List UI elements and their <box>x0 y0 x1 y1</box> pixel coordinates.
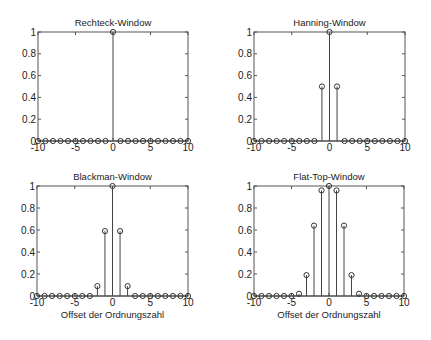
subplot-2: -10-5051000.20.40.60.81Hanning-Window <box>238 17 411 153</box>
x-tick-label: 0 <box>327 142 333 153</box>
y-tick-label: 0.8 <box>21 203 35 214</box>
y-tick-label: 0.6 <box>238 70 252 81</box>
x-tick-label: 0 <box>110 142 116 153</box>
y-tick-label: 1 <box>246 181 252 192</box>
y-tick-label: 0.2 <box>238 269 252 280</box>
y-tick-label: 0.8 <box>22 48 36 59</box>
y-tick-label: 1 <box>246 27 252 38</box>
x-tick-label: 0 <box>110 297 116 308</box>
y-tick-label: 0.2 <box>21 269 35 280</box>
y-tick-label: 0.6 <box>22 70 36 81</box>
subplot-title: Flat-Top-Window <box>293 171 364 182</box>
y-tick-label: 0.2 <box>22 114 36 125</box>
subplot-title: Rechteck-Window <box>75 17 152 28</box>
y-tick-label: 0.8 <box>238 48 252 59</box>
y-tick-label: 0.8 <box>238 203 252 214</box>
y-tick-label: 0.4 <box>238 247 252 258</box>
y-tick-label: 0.4 <box>238 92 252 103</box>
y-tick-label: 1 <box>29 181 35 192</box>
y-tick-label: 0.2 <box>238 114 252 125</box>
y-tick-label: 0.4 <box>21 247 35 258</box>
window-functions-figure: -10-5051000.20.40.60.81Rechteck-Window-1… <box>0 0 431 340</box>
subplot-title: Blackman-Window <box>73 171 152 182</box>
x-axis-label: Offset der Ordnungszahl <box>277 309 380 320</box>
y-tick-label: 0.6 <box>21 225 35 236</box>
y-tick-label: 0.4 <box>22 92 36 103</box>
x-axis-label: Offset der Ordnungszahl <box>61 309 164 320</box>
subplot-3: -10-5051000.20.40.60.81Blackman-WindowOf… <box>21 171 194 320</box>
x-tick-label: 0 <box>326 297 332 308</box>
subplot-4: -10-5051000.20.40.60.81Flat-Top-WindowOf… <box>238 171 410 320</box>
subplot-1: -10-5051000.20.40.60.81Rechteck-Window <box>22 17 194 153</box>
subplot-title: Hanning-Window <box>293 17 365 28</box>
y-tick-label: 0.6 <box>238 225 252 236</box>
y-tick-label: 1 <box>30 27 36 38</box>
